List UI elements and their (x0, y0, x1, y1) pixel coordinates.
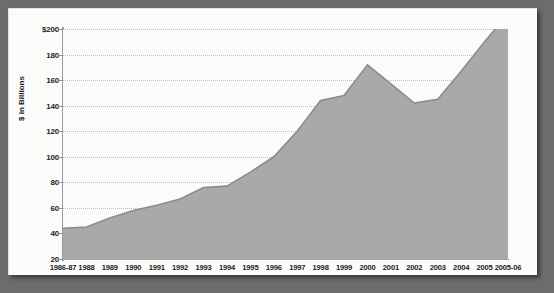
y-axis-tick-label: 160 (13, 76, 59, 85)
screenshot-frame: $ in Billions 20406080100120140160180$20… (0, 0, 554, 293)
x-axis-tick-label: 2005-06 (484, 263, 532, 272)
area-series (63, 29, 508, 259)
area-chart: $ in Billions 20406080100120140160180$20… (9, 9, 537, 275)
y-axis-tick-label: 60 (13, 204, 59, 213)
y-axis-tick-label: 140 (13, 102, 59, 111)
y-axis-tick-label: 120 (13, 127, 59, 136)
y-axis-tick-label: 180 (13, 51, 59, 60)
y-axis-tick-label: $200 (13, 25, 59, 34)
chart-card: $ in Billions 20406080100120140160180$20… (8, 8, 537, 275)
y-axis-tick-label: 40 (13, 229, 59, 238)
plot-area (63, 29, 508, 259)
gridline (63, 259, 508, 260)
y-axis-tick-label: 100 (13, 153, 59, 162)
y-axis-tick-label: 80 (13, 178, 59, 187)
